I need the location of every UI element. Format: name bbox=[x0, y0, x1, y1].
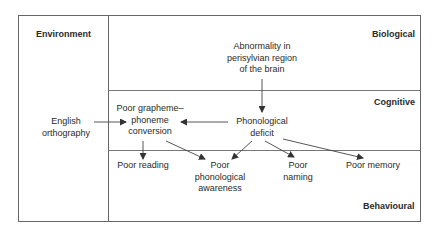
node-english-orthography: English orthography bbox=[38, 116, 94, 139]
node-text-line: Poor bbox=[280, 160, 316, 172]
node-text-line: awareness bbox=[188, 183, 252, 195]
node-text-line: Abnormality in bbox=[222, 41, 302, 53]
region-label-cognitive: Cognitive bbox=[374, 97, 415, 107]
arrow-deficit-to-naming bbox=[265, 141, 294, 157]
node-poor-memory: Poor memory bbox=[342, 160, 404, 172]
node-text-line: deficit bbox=[229, 128, 295, 140]
region-label-behavioural: Behavioural bbox=[363, 201, 415, 211]
node-text-line: naming bbox=[280, 172, 316, 184]
node-abnormality: Abnormality in perisylvian region of the… bbox=[222, 41, 302, 76]
node-text-line: Poor grapheme– bbox=[112, 103, 188, 115]
node-poor-gpc: Poor grapheme– phoneme conversion bbox=[112, 103, 188, 138]
node-text-line: Poor memory bbox=[342, 160, 404, 172]
node-text-line: Phonological bbox=[229, 116, 295, 128]
node-text-line: conversion bbox=[112, 126, 188, 138]
node-phonological-deficit: Phonological deficit bbox=[229, 116, 295, 139]
node-text-line: phoneme bbox=[112, 115, 188, 127]
node-text-line: Poor bbox=[188, 160, 252, 172]
region-label-environment: Environment bbox=[36, 29, 91, 39]
node-poor-naming: Poor naming bbox=[280, 160, 316, 183]
node-text-line: perisylvian region bbox=[222, 53, 302, 65]
node-text-line: phonological bbox=[188, 172, 252, 184]
node-poor-phonological-awareness: Poor phonological awareness bbox=[188, 160, 252, 195]
region-label-biological: Biological bbox=[372, 29, 415, 39]
node-poor-reading: Poor reading bbox=[112, 160, 174, 172]
node-text-line: English bbox=[38, 116, 94, 128]
node-text-line: Poor reading bbox=[112, 160, 174, 172]
node-text-line: orthography bbox=[38, 128, 94, 140]
arrow-deficit-to-memory bbox=[283, 139, 363, 158]
node-text-line: of the brain bbox=[222, 64, 302, 76]
